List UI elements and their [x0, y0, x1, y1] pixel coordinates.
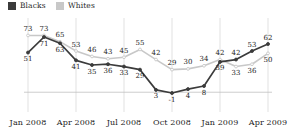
- data-point-blacks-7[interactable]: [139, 68, 142, 71]
- x-axis: Jan 2008Apr 2008Jul 2008Oct 2008Jan 2009…: [0, 116, 291, 138]
- value-label-blacks-8: 3: [154, 92, 158, 100]
- data-point-blacks-5[interactable]: [107, 63, 110, 66]
- data-point-whites-11[interactable]: [203, 64, 206, 67]
- data-point-whites-15[interactable]: [267, 52, 270, 55]
- legend-swatch-whites: [56, 2, 64, 10]
- value-label-whites-9: 29: [168, 59, 177, 67]
- data-point-blacks-12[interactable]: [219, 60, 222, 63]
- value-label-blacks-5: 36: [104, 67, 113, 75]
- value-label-blacks-12: 39: [216, 64, 225, 72]
- data-point-whites-0[interactable]: [27, 34, 30, 37]
- data-point-blacks-4[interactable]: [91, 64, 94, 67]
- value-label-whites-8: 42: [152, 49, 161, 57]
- value-label-blacks-7: 29: [136, 72, 145, 80]
- value-label-whites-13: 33: [232, 69, 241, 77]
- data-point-blacks-8[interactable]: [155, 88, 158, 91]
- value-label-blacks-0: 51: [24, 55, 33, 63]
- value-label-whites-12: 42: [216, 49, 225, 57]
- data-point-blacks-13[interactable]: [235, 58, 238, 61]
- value-label-whites-10: 30: [184, 58, 193, 66]
- value-label-whites-15: 50: [264, 56, 273, 64]
- data-point-whites-7[interactable]: [139, 48, 142, 51]
- data-point-whites-6[interactable]: [123, 56, 126, 59]
- value-label-whites-2: 65: [56, 31, 65, 39]
- data-point-blacks-9[interactable]: [171, 92, 174, 95]
- data-point-blacks-14[interactable]: [251, 50, 254, 53]
- value-label-whites-0: 73: [24, 25, 33, 33]
- value-label-blacks-10: 4: [186, 92, 191, 100]
- value-label-whites-7: 55: [136, 39, 145, 47]
- data-point-blacks-3[interactable]: [75, 59, 78, 62]
- x-tick-label-5: Apr 2009: [249, 118, 287, 127]
- data-point-blacks-10[interactable]: [187, 88, 190, 91]
- data-point-blacks-6[interactable]: [123, 65, 126, 68]
- value-label-blacks-2: 63: [56, 46, 65, 54]
- value-label-whites-11: 34: [200, 55, 209, 63]
- data-point-whites-3[interactable]: [75, 50, 78, 53]
- value-label-whites-3: 53: [72, 41, 81, 49]
- legend-label-whites: Whites: [68, 2, 95, 10]
- series-layer: [27, 34, 270, 94]
- value-label-whites-5: 43: [104, 48, 113, 56]
- chart-legend: Blacks Whites: [0, 0, 291, 18]
- plot-area: 51716341353633293-1483942536273736553464…: [0, 18, 291, 114]
- line-chart: Blacks Whites 51716341353633293-14839425…: [0, 0, 291, 138]
- data-point-whites-8[interactable]: [155, 58, 158, 61]
- data-point-blacks-0[interactable]: [27, 51, 30, 54]
- legend-item-blacks[interactable]: Blacks: [8, 2, 46, 10]
- x-tick-label-4: Jan 2009: [202, 118, 239, 127]
- value-label-whites-1: 73: [40, 25, 49, 33]
- value-label-blacks-14: 53: [248, 41, 257, 49]
- value-label-blacks-13: 42: [232, 49, 241, 57]
- value-label-blacks-11: 8: [202, 89, 206, 97]
- data-point-blacks-1[interactable]: [43, 36, 46, 39]
- plot-svg: 51716341353633293-1483942536273736553464…: [0, 18, 291, 114]
- data-point-whites-9[interactable]: [171, 68, 174, 71]
- data-point-blacks-15[interactable]: [267, 43, 270, 46]
- value-label-blacks-9: -1: [169, 96, 176, 104]
- value-label-whites-14: 36: [248, 67, 257, 75]
- data-point-whites-4[interactable]: [91, 55, 94, 58]
- value-label-blacks-1: 71: [40, 40, 49, 48]
- legend-swatch-blacks: [8, 2, 16, 10]
- data-point-blacks-11[interactable]: [203, 85, 206, 88]
- x-tick-label-0: Jan 2008: [10, 118, 47, 127]
- data-point-blacks-2[interactable]: [59, 42, 62, 45]
- x-tick-label-2: Jul 2008: [107, 118, 142, 127]
- legend-item-whites[interactable]: Whites: [56, 2, 95, 10]
- value-label-blacks-6: 33: [120, 69, 129, 77]
- data-point-whites-13[interactable]: [235, 65, 238, 68]
- value-label-whites-4: 46: [88, 46, 97, 54]
- x-tick-label-1: Apr 2008: [57, 118, 95, 127]
- value-label-blacks-15: 62: [264, 34, 273, 42]
- data-labels-layer: 51716341353633293-1483942536273736553464…: [24, 25, 273, 104]
- legend-label-blacks: Blacks: [20, 2, 46, 10]
- value-label-blacks-4: 35: [88, 68, 97, 76]
- value-label-blacks-3: 41: [72, 63, 81, 71]
- data-point-whites-14[interactable]: [251, 63, 254, 66]
- x-tick-label-3: Oct 2008: [153, 118, 191, 127]
- value-label-whites-6: 45: [120, 47, 129, 55]
- data-point-whites-5[interactable]: [107, 57, 110, 60]
- data-point-whites-10[interactable]: [187, 67, 190, 70]
